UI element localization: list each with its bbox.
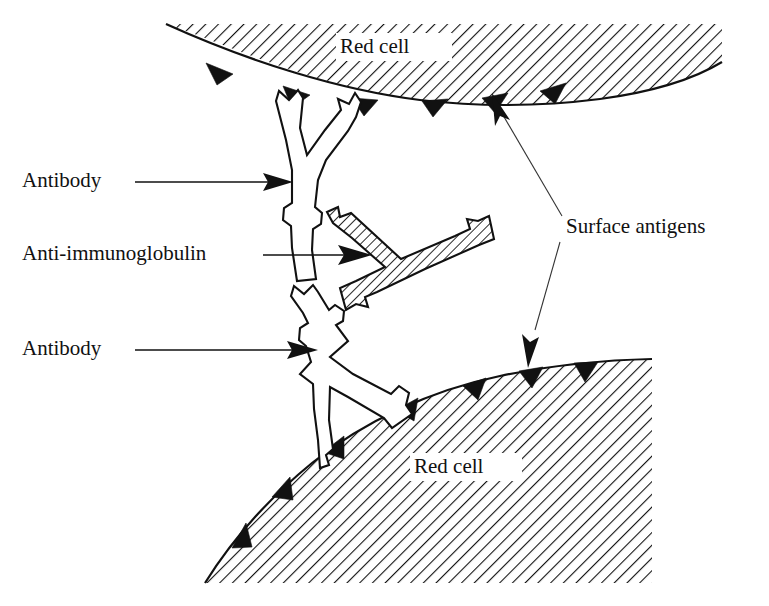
red-cell-bottom-label: Red cell <box>410 453 522 481</box>
red-cell-top-label-text: Red cell <box>340 34 410 58</box>
anti-immunoglobulin-label-text: Anti-immunoglobulin <box>22 241 207 265</box>
surface-antigens-label-text: Surface antigens <box>566 214 705 238</box>
antibody-top-label-text: Antibody <box>22 168 102 192</box>
antibody-bottom-label-text: Antibody <box>22 336 102 360</box>
immunology-diagram: Red cell Red cell <box>0 0 769 606</box>
surface-antigens-lower-leader <box>535 242 560 330</box>
red-cell-top: Red cell <box>166 24 722 117</box>
antigen-spike <box>272 477 293 500</box>
label-surface-antigens: Surface antigens <box>492 93 705 368</box>
antigen-spike <box>422 99 448 117</box>
label-anti-immunoglobulin: Anti-immunoglobulin <box>22 241 372 265</box>
red-cell-bottom: Red cell <box>205 359 652 583</box>
diagram-root: Red cell Red cell <box>0 0 769 606</box>
red-cell-bottom-label-text: Red cell <box>414 454 484 478</box>
label-antibody-bottom: Antibody <box>22 336 318 360</box>
label-antibody-top: Antibody <box>22 168 293 192</box>
surface-antigens-lower-arrowhead <box>522 334 539 368</box>
surface-antigens-upper-leader <box>500 110 562 216</box>
red-cell-top-label: Red cell <box>336 33 452 61</box>
antigen-spike <box>206 63 233 85</box>
